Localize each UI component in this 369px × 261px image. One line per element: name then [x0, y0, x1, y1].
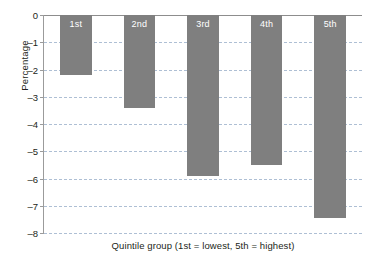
bar[interactable]: 3rd [187, 15, 219, 176]
bar-label: 1st [60, 19, 92, 29]
y-tick-label: –3 [27, 91, 38, 102]
bar-chart: Percentage 0–1–2–3–4–5–6–7–8 1st2nd3rd4t… [0, 0, 369, 261]
y-tick-label: –6 [27, 173, 38, 184]
y-tick-label: –5 [27, 146, 38, 157]
y-tick-label: –2 [27, 64, 38, 75]
y-tick-label: 0 [33, 10, 38, 21]
y-tick-label: –8 [27, 228, 38, 239]
bar-label: 4th [251, 19, 283, 29]
bar-label: 3rd [187, 19, 219, 29]
bar[interactable]: 1st [60, 15, 92, 75]
y-tick-label: –4 [27, 119, 38, 130]
bar-label: 2nd [124, 19, 156, 29]
plot-area: 0–1–2–3–4–5–6–7–8 1st2nd3rd4th5th [44, 15, 362, 233]
y-tick-label: –7 [27, 200, 38, 211]
bar[interactable]: 2nd [124, 15, 156, 108]
bar[interactable]: 4th [251, 15, 283, 165]
tick-mark [40, 233, 44, 234]
bar[interactable]: 5th [314, 15, 346, 218]
bar-label: 5th [314, 19, 346, 29]
x-axis-title: Quintile group (1st = lowest, 5th = high… [44, 240, 362, 251]
gridline-neg8 [44, 233, 362, 234]
bars-group: 1st2nd3rd4th5th [44, 15, 362, 233]
y-tick-label: –1 [27, 37, 38, 48]
